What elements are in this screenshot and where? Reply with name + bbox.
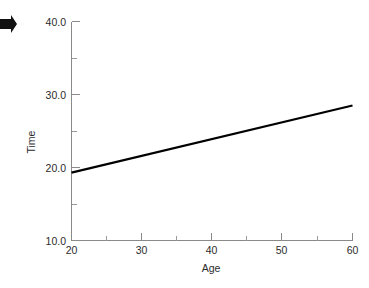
x-tick-label-50: 50 bbox=[276, 244, 288, 256]
chart-figure: 40.0 30.0 20.0 10.0 Time 20 30 40 50 60 … bbox=[0, 0, 369, 288]
x-tick-label-60: 60 bbox=[347, 244, 359, 256]
y-tick-label-40: 40.0 bbox=[46, 16, 67, 28]
x-tick-label-30: 30 bbox=[136, 244, 148, 256]
y-axis-title: Time bbox=[25, 130, 37, 153]
x-tick-label-40: 40 bbox=[206, 244, 218, 256]
x-tick-label-20: 20 bbox=[66, 244, 78, 256]
y-tick-label-30: 30.0 bbox=[46, 89, 67, 101]
y-tick-label-10: 10.0 bbox=[46, 235, 67, 247]
x-axis-title: Age bbox=[202, 262, 221, 274]
y-tick-label-20: 20.0 bbox=[46, 162, 67, 174]
